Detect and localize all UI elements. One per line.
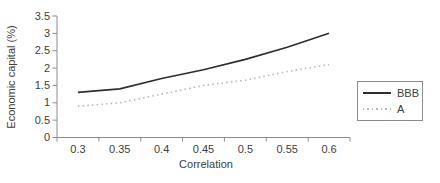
series-line-a xyxy=(78,65,329,107)
y-tick-label: 1.5 xyxy=(35,79,50,91)
x-tick-label: 0.6 xyxy=(321,143,336,155)
y-tick-label: 2 xyxy=(44,62,50,74)
series-line-bbb xyxy=(78,33,329,92)
x-tick-label: 0.3 xyxy=(70,143,85,155)
y-tick-label: 2.5 xyxy=(35,44,50,56)
x-tick-label: 0.55 xyxy=(277,143,298,155)
legend-label-a: A xyxy=(397,103,404,115)
x-tick-label: 0.4 xyxy=(154,143,169,155)
legend-item-a: A xyxy=(363,103,417,115)
legend-line-solid-icon xyxy=(363,92,391,94)
x-tick-label: 0.45 xyxy=(193,143,214,155)
axis-lines xyxy=(57,16,350,138)
x-tick-label: 0.35 xyxy=(109,143,130,155)
y-tick-label: 3 xyxy=(44,27,50,39)
legend-item-bbb: BBB xyxy=(363,87,417,99)
legend: BBB A xyxy=(357,81,423,121)
x-tick-label: 0.5 xyxy=(238,143,253,155)
y-tick-label: 1 xyxy=(44,96,50,108)
y-tick-label: 3.5 xyxy=(35,10,50,22)
chart-figure: Economic capital (%) 00.511.522.533.50.3… xyxy=(0,0,440,183)
x-axis-title: Correlation xyxy=(136,158,276,170)
y-tick-label: 0.5 xyxy=(35,114,50,126)
legend-line-dotted-icon xyxy=(363,108,391,110)
legend-label-bbb: BBB xyxy=(397,87,419,99)
y-tick-label: 0 xyxy=(44,131,50,143)
